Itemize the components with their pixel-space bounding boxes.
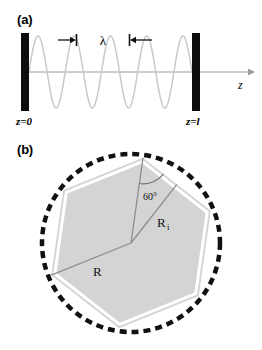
panel-b-diagram: 60° R i R [0,150,262,350]
panel-a-diagram: λ z z=0 z=l [0,0,262,150]
lambda-label: λ [100,33,107,48]
wavelength-measure: λ [58,33,152,48]
angle-label: 60° [143,191,157,202]
circumradius-label: R [93,264,102,279]
figure-container: (a) (b) λ z z=0 z=l [0,0,262,350]
z-axis [24,69,255,76]
z-axis-arrowhead [248,69,255,76]
left-mirror-label: z=0 [15,115,33,127]
left-mirror [21,33,29,111]
z-axis-label: z [237,78,243,92]
right-mirror [192,33,200,111]
lambda-right-arrowhead [130,37,136,43]
inradius-label: R [157,215,166,230]
right-mirror-label: z=l [185,115,201,127]
